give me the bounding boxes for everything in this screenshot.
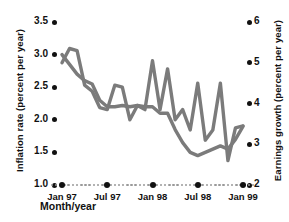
plot-area <box>0 0 289 222</box>
chart-container: Inflation rate (percent per year) Earnin… <box>0 0 289 222</box>
series-line-earnings-growth <box>62 48 243 160</box>
